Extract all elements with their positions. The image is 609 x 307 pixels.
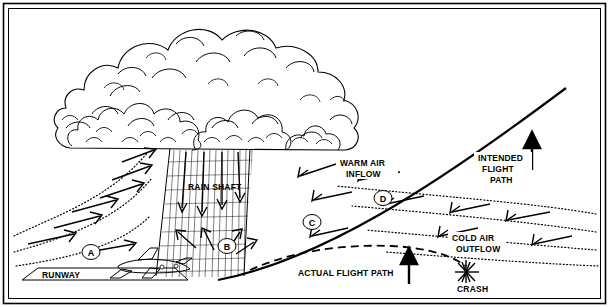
cold-air-outflow-line1: COLD AIR <box>452 233 494 243</box>
marker-a-label: A <box>88 248 95 258</box>
microburst-diagram: RAIN SHAFT <box>0 0 609 307</box>
marker-a: A <box>82 245 100 260</box>
runway-label: RUNWAY <box>42 270 80 280</box>
intended-flight-path-line2: FLIGHT <box>482 164 514 174</box>
intended-flight-path-line1: INTENDED <box>478 153 523 163</box>
warm-air-inflow-label: WARM AIR INFLOW <box>336 157 398 179</box>
marker-b-label: B <box>224 242 231 252</box>
marker-d: D <box>374 191 392 206</box>
marker-b: B <box>218 239 236 254</box>
marker-c: C <box>303 215 321 230</box>
diagram-canvas: RAIN SHAFT <box>0 0 609 307</box>
marker-d-label: D <box>380 194 387 204</box>
intended-flight-path-line3: PATH <box>490 175 513 185</box>
actual-flight-path-text: ACTUAL FLIGHT PATH <box>298 268 394 278</box>
intended-flight-path-label: INTENDED FLIGHT PATH <box>474 152 532 186</box>
warm-air-inflow-line1: WARM AIR <box>340 158 385 168</box>
cold-air-outflow-label: COLD AIR OUTFLOW <box>448 232 506 254</box>
cold-air-outflow-line2: OUTFLOW <box>456 244 501 254</box>
crash-text: CRASH <box>457 284 488 294</box>
crash-label: CRASH <box>455 283 489 295</box>
marker-c-label: C <box>309 218 316 228</box>
warm-air-inflow-line2: INFLOW <box>346 169 381 179</box>
rain-shaft-label: RAIN SHAFT <box>188 182 242 192</box>
actual-flight-path-label: ACTUAL FLIGHT PATH <box>295 266 400 279</box>
